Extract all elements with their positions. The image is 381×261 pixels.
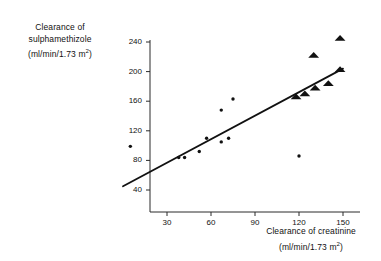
data-point-triangle: [335, 66, 346, 72]
data-point-circle: [198, 150, 201, 153]
y-axis-title: Clearance of sulphamethizole (ml/min/1.7…: [6, 22, 114, 60]
x-axis-title-line-1: Clearance of creatinine: [245, 226, 377, 238]
y-tick-label-160: 160: [112, 96, 142, 105]
x-axis-title: Clearance of creatinine (ml/min/1.73 m2): [245, 226, 377, 253]
data-point-triangle: [335, 35, 346, 41]
x-tick-label-90: 90: [240, 218, 270, 227]
data-point-circle: [227, 137, 230, 140]
data-point-circle: [183, 156, 186, 159]
data-point-circle: [177, 156, 180, 159]
data-point-circle: [220, 108, 223, 111]
data-point-circle: [205, 137, 208, 140]
scatter-plot-figure: Clearance of sulphamethizole (ml/min/1.7…: [0, 0, 381, 261]
axis-lines: [150, 40, 360, 212]
x-tick-label-120: 120: [284, 218, 314, 227]
data-point-triangle: [323, 80, 334, 86]
y-axis-units-suffix: ): [89, 49, 92, 59]
y-axis-units-prefix: (ml/min/1.73 m: [28, 49, 86, 59]
y-tick-label-120: 120: [112, 126, 142, 135]
data-point-circle: [231, 97, 234, 100]
x-tick-label-60: 60: [196, 218, 226, 227]
data-point-circle: [220, 140, 223, 143]
x-tick-label-150: 150: [328, 218, 358, 227]
y-tick-label-80: 80: [112, 155, 142, 164]
x-axis-units-prefix: (ml/min/1.73 m: [279, 241, 337, 251]
data-point-circle: [297, 154, 300, 157]
axis-tick-marks: [146, 42, 343, 216]
data-point-circle: [129, 145, 132, 148]
y-axis-title-line-2: sulphamethizole: [6, 34, 114, 46]
regression-line: [123, 69, 343, 187]
x-axis-title-line-2: (ml/min/1.73 m2): [245, 238, 377, 253]
y-tick-label-40: 40: [112, 185, 142, 194]
fitted-regression-line: [123, 69, 343, 187]
y-tick-label-200: 200: [112, 67, 142, 76]
x-tick-label-30: 30: [152, 218, 182, 227]
data-markers: [129, 35, 346, 159]
y-axis-title-line-3: (ml/min/1.73 m2): [6, 45, 114, 60]
y-axis-title-line-1: Clearance of: [6, 22, 114, 34]
data-point-triangle: [308, 52, 319, 58]
x-axis-units-suffix: ): [340, 241, 343, 251]
y-tick-label-240: 240: [112, 37, 142, 46]
